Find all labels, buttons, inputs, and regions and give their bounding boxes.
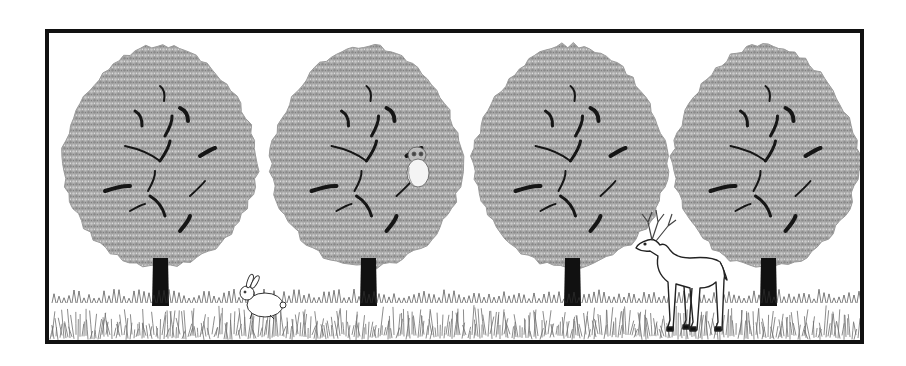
owl-figure [407,147,429,187]
illustration-scene [0,0,906,366]
